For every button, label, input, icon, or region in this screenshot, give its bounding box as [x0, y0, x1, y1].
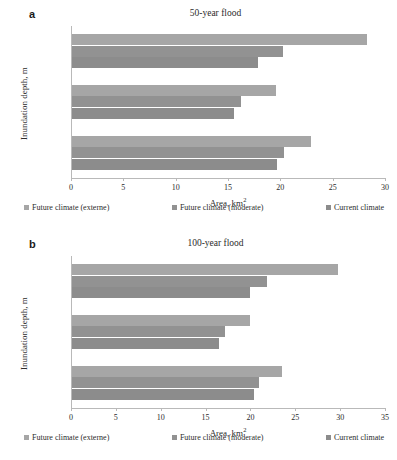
bar-moderate — [72, 46, 283, 57]
bar-extreme — [72, 136, 311, 147]
y-axis-title: Inundation depth, m — [19, 297, 29, 370]
chart-legend: Future climate (externe)Future climate (… — [24, 433, 384, 442]
legend-swatch-icon — [24, 435, 29, 440]
bar-moderate — [72, 147, 284, 158]
x-axis-tick — [228, 178, 229, 181]
x-axis-tick-label: 5 — [114, 413, 118, 422]
legend-item[interactable]: Future climate (moderate) — [172, 433, 264, 442]
x-axis-tick-label: 0 — [69, 413, 73, 422]
chart-title: 100-year flood — [0, 238, 397, 248]
x-axis-tick — [71, 408, 72, 411]
x-axis-tick-label: 30 — [336, 413, 344, 422]
chart-panel-a: a50-year flood0510152025300.1 - 0.50.5 -… — [0, 0, 397, 230]
bar-group: 0.1 - 0.5 — [71, 127, 385, 178]
bar-extreme — [72, 366, 282, 377]
x-axis-tick — [250, 408, 251, 411]
legend-swatch-icon — [172, 205, 177, 210]
x-axis-tick-label: 25 — [329, 183, 337, 192]
x-axis-tick — [333, 178, 334, 181]
bar-group: 0.1 - 0.5 — [71, 357, 385, 408]
legend-label: Current climate — [334, 203, 384, 212]
y-axis-title: Inundation depth, m — [19, 67, 29, 140]
x-axis-tick — [161, 408, 162, 411]
legend-swatch-icon — [172, 435, 177, 440]
legend-swatch-icon — [24, 205, 29, 210]
bar-current — [72, 338, 219, 349]
x-axis-tick — [340, 408, 341, 411]
legend-swatch-icon — [326, 435, 331, 440]
bar-extreme — [72, 264, 338, 275]
x-axis-tick — [176, 178, 177, 181]
legend-label: Future climate (moderate) — [180, 433, 264, 442]
bar-extreme — [72, 34, 367, 45]
x-axis-tick-label: 20 — [276, 183, 284, 192]
chart-panel-b: b100-year flood051015202530350.1 - 0.50.… — [0, 230, 397, 460]
x-axis-tick — [295, 408, 296, 411]
legend-item[interactable]: Future climate (externe) — [24, 203, 109, 212]
legend-label: Future climate (externe) — [32, 433, 109, 442]
figure-root: a50-year flood0510152025300.1 - 0.50.5 -… — [0, 0, 397, 460]
x-axis-tick-label: 30 — [381, 183, 389, 192]
bar-extreme — [72, 315, 250, 326]
legend-label: Future climate (externe) — [32, 203, 109, 212]
bar-group: > 1.5 — [71, 26, 385, 77]
bar-current — [72, 159, 277, 170]
chart-title: 50-year flood — [0, 8, 397, 18]
bar-group: 0.5 - 1.5 — [71, 77, 385, 128]
x-axis-line — [71, 408, 385, 409]
bar-moderate — [72, 276, 267, 287]
bar-group: 0.5 - 1.5 — [71, 307, 385, 358]
x-axis-tick-label: 15 — [224, 183, 232, 192]
x-axis-tick — [123, 178, 124, 181]
legend-item[interactable]: Current climate — [326, 203, 384, 212]
legend-item[interactable]: Current climate — [326, 433, 384, 442]
x-axis-tick-label: 10 — [157, 413, 165, 422]
legend-label: Current climate — [334, 433, 384, 442]
legend-label: Future climate (moderate) — [180, 203, 264, 212]
x-axis-title-exponent: 2 — [243, 426, 246, 433]
x-axis-tick-label: 20 — [246, 413, 254, 422]
x-axis-tick — [116, 408, 117, 411]
bar-moderate — [72, 377, 259, 388]
bar-current — [72, 57, 258, 68]
bar-moderate — [72, 96, 241, 107]
bar-extreme — [72, 85, 276, 96]
plot-area: 0510152025300.1 - 0.50.5 - 1.5> 1.5Inund… — [71, 26, 385, 178]
chart-legend: Future climate (externe)Future climate (… — [24, 203, 384, 212]
x-axis-tick-label: 25 — [291, 413, 299, 422]
bar-group: > 1.5 — [71, 256, 385, 307]
x-axis-tick — [71, 178, 72, 181]
x-axis-tick-label: 10 — [172, 183, 180, 192]
x-axis-title-exponent: 2 — [243, 196, 246, 203]
legend-item[interactable]: Future climate (externe) — [24, 433, 109, 442]
bar-current — [72, 389, 254, 400]
x-axis-tick-label: 35 — [381, 413, 389, 422]
x-axis-tick-label: 15 — [202, 413, 210, 422]
bar-current — [72, 287, 250, 298]
x-axis-tick-label: 0 — [69, 183, 73, 192]
plot-area: 051015202530350.1 - 0.50.5 - 1.5> 1.5Inu… — [71, 256, 385, 408]
bar-current — [72, 108, 234, 119]
x-axis-tick — [206, 408, 207, 411]
x-axis-tick — [385, 178, 386, 181]
legend-swatch-icon — [326, 205, 331, 210]
x-axis-tick — [280, 178, 281, 181]
bar-moderate — [72, 326, 225, 337]
x-axis-tick-label: 5 — [121, 183, 125, 192]
legend-item[interactable]: Future climate (moderate) — [172, 203, 264, 212]
x-axis-tick — [385, 408, 386, 411]
